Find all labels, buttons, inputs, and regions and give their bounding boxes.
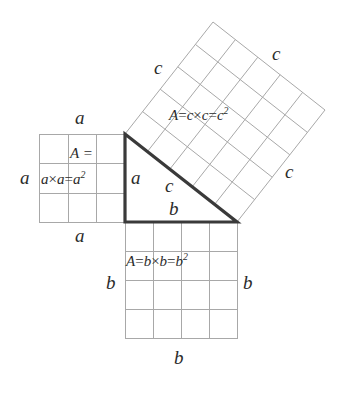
label-b-bottom: b	[174, 348, 184, 367]
square-c-A: A	[169, 107, 178, 123]
square-b-equals2: =	[167, 253, 175, 269]
square-b-A: A	[126, 253, 135, 269]
square-a-result-exponent: 2	[80, 169, 85, 180]
square-c-equals1: =	[178, 107, 186, 123]
label-a-top: a	[75, 108, 85, 127]
square-a-equals: =	[64, 171, 72, 187]
square-c-area-label: A=c×c=c2	[169, 106, 229, 123]
square-b-area-label: A=b×b=b2	[126, 252, 188, 269]
label-b-right: b	[243, 273, 253, 292]
square-b-var2: b	[160, 253, 168, 269]
label-triangle-leg-b: b	[169, 199, 179, 218]
square-b-result-base: b	[176, 253, 184, 269]
square-b-grid-lines	[126, 223, 238, 339]
square-a-var1: a	[41, 171, 49, 187]
label-c-lower-right: c	[285, 162, 293, 181]
square-a-area-label-line2: a×a=a2	[41, 170, 85, 187]
label-a-right: a	[131, 168, 141, 187]
square-b-result-exponent: 2	[183, 251, 188, 262]
square-a-operator: ×	[49, 171, 57, 187]
square-c-equals2: =	[208, 107, 216, 123]
label-triangle-hypotenuse-c: c	[165, 176, 173, 195]
square-c-operator: ×	[193, 107, 201, 123]
square-c-result-exponent: 2	[224, 105, 229, 116]
square-b-operator: ×	[151, 253, 159, 269]
label-a-left: a	[20, 168, 30, 187]
label-b-left: b	[106, 273, 116, 292]
label-a-bottom: a	[75, 226, 85, 245]
label-c-upper-left: c	[154, 58, 162, 77]
label-c-upper-right: c	[272, 44, 280, 63]
square-b-equals1: =	[135, 253, 143, 269]
square-c-result-base: c	[217, 107, 224, 123]
pythagorean-theorem-figure: a a a a A = a×a=a2 a c b b b b A=b×b=b2 …	[0, 0, 340, 395]
right-triangle	[125, 134, 237, 222]
square-a-area-label-line1: A =	[70, 146, 93, 161]
square-b-group	[126, 223, 238, 339]
